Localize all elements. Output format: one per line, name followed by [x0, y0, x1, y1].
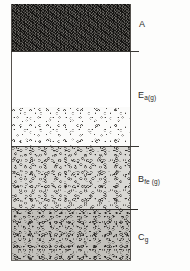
horizon-e-layer — [12, 51, 130, 146]
boundary-line-a-e — [11, 51, 139, 52]
horizon-label-a-main: A — [139, 19, 145, 29]
horizon-b-layer — [12, 146, 130, 209]
horizon-e-mottled-zone — [12, 107, 130, 146]
horizon-label-e-sub: a(g) — [144, 94, 156, 101]
boundary-line-e-b — [11, 146, 139, 147]
horizon-label-b-sub: fe (g) — [144, 178, 160, 185]
soil-profile-diagram: A Ea(g) Bfe (g) Cg — [0, 0, 190, 271]
horizon-label-a: A — [139, 20, 145, 31]
horizon-label-c: Cg — [138, 233, 148, 244]
horizon-label-e: Ea(g) — [138, 91, 156, 102]
horizon-label-b: Bfe (g) — [138, 175, 160, 186]
horizon-label-c-main: C — [138, 232, 145, 242]
horizon-label-c-sub: g — [145, 236, 149, 243]
horizon-c-layer — [12, 209, 130, 260]
horizon-e-clean-zone — [12, 51, 130, 109]
profile-bottom-edge — [11, 260, 131, 261]
horizon-a-layer — [12, 4, 130, 51]
boundary-line-b-c — [11, 209, 138, 210]
soil-profile-column — [11, 4, 131, 260]
